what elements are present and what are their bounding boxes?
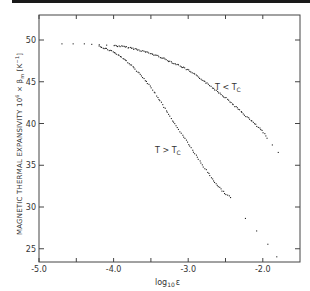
data-point: [208, 84, 209, 85]
data-point: [245, 218, 246, 219]
x-tick-label: -4.0: [106, 265, 122, 274]
data-point: [162, 104, 163, 105]
data-point: [223, 191, 224, 192]
data-point: [173, 122, 174, 123]
x-axis-title: log10ε: [155, 278, 180, 288]
series-label-above-tc: T > TC: [154, 146, 181, 156]
data-point: [265, 135, 266, 136]
data-point: [91, 44, 92, 45]
data-point: [256, 126, 257, 127]
data-point: [230, 197, 231, 198]
data-point: [233, 104, 234, 105]
data-point: [106, 48, 107, 49]
data-point: [256, 230, 257, 231]
data-point: [234, 106, 235, 107]
data-point: [121, 45, 122, 46]
data-point: [146, 81, 147, 82]
data-point: [213, 180, 214, 181]
data-point: [131, 48, 132, 49]
data-point: [191, 147, 192, 148]
chart-canvas: -5.0-4.0-3.0-2.0 253035404550 T < TC T >…: [0, 0, 310, 291]
data-point: [145, 80, 146, 81]
data-point: [169, 61, 170, 62]
data-point: [101, 47, 102, 48]
data-point: [247, 116, 248, 117]
data-point: [109, 50, 110, 51]
data-point: [125, 47, 126, 48]
data-point: [110, 50, 111, 51]
data-point: [150, 53, 151, 54]
data-point: [221, 188, 222, 189]
data-point: [168, 114, 169, 115]
data-point: [144, 51, 145, 52]
data-point: [237, 107, 238, 108]
data-point: [104, 48, 105, 49]
data-point: [140, 74, 141, 75]
data-point: [171, 118, 172, 119]
data-point: [207, 82, 208, 83]
data-point: [202, 164, 203, 165]
data-point: [187, 142, 188, 143]
data-point: [187, 69, 188, 70]
data-point: [236, 106, 237, 107]
data-point: [239, 109, 240, 110]
data-point: [173, 63, 174, 64]
data-point: [169, 116, 170, 117]
data-point: [276, 256, 277, 257]
data-point: [155, 55, 156, 56]
data-point: [160, 57, 161, 58]
data-point: [221, 191, 222, 192]
y-axis-ticks: 253035404550: [26, 36, 300, 254]
data-point: [134, 69, 135, 70]
data-point: [194, 153, 195, 154]
data-point: [206, 169, 207, 170]
data-point: [144, 78, 145, 79]
y-tick-label: 50: [26, 36, 36, 45]
x-tick-label: -5.0: [31, 265, 47, 274]
data-point: [189, 71, 190, 72]
data-point: [212, 178, 213, 179]
series-label-below-tc: T < TC: [214, 83, 241, 93]
data-point: [209, 85, 210, 86]
y-tick-label: 40: [26, 120, 36, 129]
data-point: [227, 99, 228, 100]
data-point: [251, 121, 252, 122]
data-point: [176, 64, 177, 65]
data-point: [259, 128, 260, 129]
y-tick-label: 45: [26, 78, 36, 87]
data-point: [253, 122, 254, 123]
data-point: [124, 46, 125, 47]
data-point: [129, 63, 130, 64]
data-point: [164, 58, 165, 59]
data-point: [138, 72, 139, 73]
data-point: [176, 125, 177, 126]
data-point: [115, 45, 116, 46]
data-point: [200, 163, 201, 164]
data-point: [201, 79, 202, 80]
data-point: [204, 81, 205, 82]
data-point: [178, 129, 179, 130]
data-point: [156, 96, 157, 97]
data-point: [139, 50, 140, 51]
data-point: [99, 44, 100, 45]
data-point: [152, 54, 153, 55]
data-point: [131, 65, 132, 66]
data-point: [260, 129, 261, 130]
data-point: [189, 146, 190, 147]
data-point: [166, 110, 167, 111]
data-point: [158, 56, 159, 57]
data-point: [147, 52, 148, 53]
data-point: [182, 67, 183, 68]
data-point: [126, 60, 127, 61]
data-point: [123, 58, 124, 59]
data-point: [73, 43, 74, 44]
data-point: [138, 49, 139, 50]
data-point: [153, 55, 154, 56]
data-point: [166, 59, 167, 60]
data-point: [183, 137, 184, 138]
data-point: [212, 88, 213, 89]
data-point: [267, 244, 268, 245]
data-point: [154, 92, 155, 93]
data-point: [148, 84, 149, 85]
data-point: [163, 57, 164, 58]
